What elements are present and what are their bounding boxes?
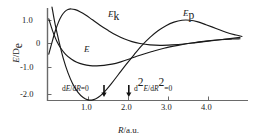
curve-e-k [49,9,240,54]
x-tick-label-2: 2.0 [121,103,132,112]
energy-curves-figure: 1.0 0 -1.0 -2.0 1.0 2.0 3.0 4.0 E/De R/a… [0,0,260,140]
curve-label-ep-subscript: p [189,9,195,21]
x-tick-marks [89,97,209,101]
x-tick-label-3: 3.0 [161,103,172,112]
plot-canvas [0,0,260,140]
annot2-eq: =0 [164,84,172,93]
x-tick-label-4: 4.0 [201,103,212,112]
y-axis-title-subscript: e [12,43,24,48]
curve-label-e-E: E [84,44,90,54]
curve-label-e: E [84,39,90,55]
y-tick-label-1: 1.0 [22,16,33,25]
curve-label-ek: Ek [108,4,119,22]
x-axis-title-units: /a.u. [124,125,140,135]
annotation-second-derivative: d2E/dR2=0 [134,77,172,94]
y-tick-label-3: -1.0 [20,63,33,72]
y-axis-title-slash: / [11,55,21,58]
annot1-eq: =0 [81,84,89,93]
arrow-head-second-derivative-zero [126,93,131,98]
y-axis-title-D: D [11,48,21,55]
x-axis-title: R/a.u. [118,120,139,136]
x-tick-label-1: 1.0 [81,103,92,112]
curve-label-ep: Ep [183,3,194,21]
y-tick-label-2: 0 [36,39,40,48]
annotation-first-derivative: dE/dR=0 [62,78,89,94]
y-tick-label-4: -2.0 [20,90,33,99]
y-axis-title-E: E [11,57,21,63]
curve-label-ek-subscript: k [114,10,120,22]
y-axis-title: E/De [5,33,19,73]
